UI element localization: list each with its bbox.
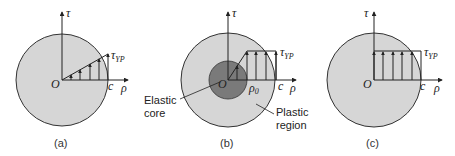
origin-label: O [363, 77, 372, 91]
caption-a: (a) [54, 137, 67, 149]
caption-b: (b) [220, 137, 233, 149]
yield-stress-label: τYP [280, 45, 294, 61]
tau-axis-label: τ [364, 6, 369, 20]
panel-a: τ O c ρ τYP (a) [16, 6, 128, 149]
plastic-region-label-line1: Plastic [276, 106, 309, 118]
tau-axis-label: τ [66, 6, 71, 20]
rho-axis-label: ρ [433, 81, 440, 95]
elastic-core-label-line2: core [144, 107, 165, 119]
rho-axis-label: ρ [289, 81, 296, 95]
tau-axis-label: τ [232, 6, 237, 20]
plastic-region-label-line2: region [276, 119, 307, 131]
panel-c: τ O c ρ τYP (c) [327, 6, 442, 149]
origin-label: O [218, 77, 227, 91]
yield-stress-label: τYP [111, 48, 125, 64]
yield-stress-label: τYP [424, 45, 438, 61]
origin-label: O [51, 77, 60, 91]
caption-c: (c) [366, 137, 379, 149]
elastic-core-label-line1: Elastic [144, 94, 177, 106]
radius-label: c [278, 79, 284, 93]
panel-b: τ O ρ0 c ρ τYP Elastic core Plastic regi… [144, 6, 309, 149]
rho-axis-label: ρ [120, 81, 127, 95]
radius-label: c [420, 79, 426, 93]
torsion-stress-diagram: τ O c ρ τYP (a) τ O ρ0 c ρ τYP Elastic c… [0, 0, 455, 156]
radius-label: c [108, 79, 114, 93]
